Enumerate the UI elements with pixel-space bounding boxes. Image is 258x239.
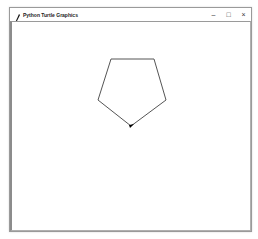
drawing-layer xyxy=(0,0,258,239)
pentagon-shape xyxy=(98,59,166,126)
